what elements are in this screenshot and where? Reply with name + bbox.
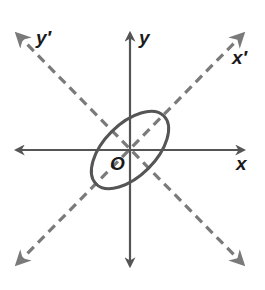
x-axis-label: x xyxy=(236,154,247,173)
origin-label: O xyxy=(110,154,125,173)
y-axis-label: y xyxy=(139,28,150,47)
x-prime-axis-label: x′ xyxy=(232,48,247,67)
y-prime-axis-label: y′ xyxy=(36,28,51,47)
